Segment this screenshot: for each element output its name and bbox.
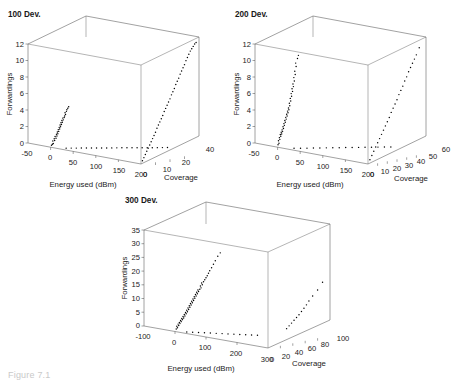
data-point — [322, 282, 323, 283]
y-tick-label: 40 — [417, 157, 425, 166]
data-point — [143, 157, 144, 158]
data-point — [358, 147, 359, 148]
plot-panel-300-dev: 35 30 25 20 15 10 5 0 Forwardings — [113, 186, 363, 372]
z-axis-100: 12 10 8 6 4 2 0 Forwardings — [5, 40, 28, 148]
data-point — [53, 143, 54, 144]
data-point — [410, 67, 411, 68]
y-tick-label: 30 — [405, 161, 413, 170]
data-point — [290, 93, 291, 94]
data-point — [211, 267, 212, 268]
data-point — [384, 146, 385, 147]
data-point — [59, 128, 60, 129]
data-point — [65, 114, 66, 115]
x-tick-label: 100 — [90, 162, 103, 171]
data-point — [141, 147, 142, 148]
data-point — [155, 132, 156, 133]
data-point — [191, 48, 192, 49]
z-axis-200: 12 10 8 6 4 2 0 Forwardings — [232, 40, 255, 148]
data-point — [162, 147, 163, 148]
data-point — [181, 70, 182, 71]
data-point — [194, 296, 195, 297]
z-axis-label: Forwardings — [5, 72, 14, 115]
x-tick-label: 150 — [113, 166, 126, 175]
data-point — [294, 70, 295, 71]
data-point — [217, 256, 218, 257]
z-axis-label: Forwardings — [232, 72, 241, 115]
data-point — [190, 303, 191, 304]
data-point — [364, 147, 365, 148]
data-point — [205, 277, 206, 278]
data-point — [198, 291, 199, 292]
data-point — [317, 289, 318, 290]
data-point — [285, 122, 286, 123]
data-point — [197, 289, 198, 290]
data-point — [287, 112, 288, 113]
data-point — [193, 300, 194, 301]
data-point — [285, 118, 286, 119]
data-point — [196, 292, 197, 293]
plot-title-100: 100 Dev. — [8, 10, 41, 19]
z-tick-label: 4 — [20, 106, 24, 115]
data-point — [199, 289, 200, 290]
data-point — [400, 90, 401, 91]
x-axis-label: Energy used (dBm) — [49, 180, 117, 189]
z-tick-label: 35 — [132, 226, 140, 235]
data-point — [404, 80, 405, 81]
data-point — [389, 117, 390, 118]
x-tick-label: 0 — [275, 153, 279, 162]
data-point — [168, 101, 169, 102]
data-point — [201, 282, 202, 283]
data-point — [203, 281, 204, 282]
data-point — [58, 129, 59, 130]
data-point — [281, 129, 282, 130]
data-point — [257, 334, 258, 335]
data-point — [66, 111, 67, 112]
data-point — [91, 147, 92, 148]
plot-svg-100-dev: 12 10 8 6 4 2 0 Forwardings — [0, 0, 227, 191]
plot-title-200: 200 Dev. — [235, 10, 268, 19]
data-point — [195, 295, 196, 296]
data-point — [60, 126, 61, 127]
data-point — [163, 111, 164, 112]
data-point — [178, 325, 179, 326]
y-tick-label: 20 — [393, 164, 401, 173]
plot-svg-300-dev: 35 30 25 20 15 10 5 0 Forwardings — [113, 186, 363, 372]
x-axis-300: -100 0 100 200 300 Energy used (dBm) — [135, 332, 273, 374]
y-tick-label: 50 — [429, 152, 437, 161]
data-point — [106, 147, 107, 148]
data-point — [385, 125, 386, 126]
x-tick-label: 0 — [172, 338, 176, 347]
axes-box-300 — [144, 202, 330, 348]
data-point — [162, 115, 163, 116]
plot-panel-200-dev: 12 10 8 6 4 2 0 Forwardings — [227, 0, 454, 191]
y-axis-label: Coverage — [292, 359, 326, 368]
data-point — [136, 147, 137, 148]
data-point — [184, 64, 185, 65]
data-point — [63, 119, 64, 120]
data-point — [152, 147, 153, 148]
data-point — [157, 147, 158, 148]
data-point — [210, 332, 211, 333]
data-point — [204, 279, 205, 280]
data-point — [369, 159, 370, 160]
x-tick-label: 100 — [317, 162, 330, 171]
data-point — [288, 109, 289, 110]
data-point — [408, 71, 409, 72]
data-point — [291, 322, 292, 323]
data-point — [186, 310, 187, 311]
data-point — [198, 332, 199, 333]
data-point — [189, 305, 190, 306]
data-point — [194, 298, 195, 299]
data-point — [184, 314, 185, 315]
data-point — [101, 147, 102, 148]
data-point — [62, 121, 63, 122]
data-point — [402, 85, 403, 86]
data-point — [174, 88, 175, 89]
y-tick-label: 40 — [206, 145, 214, 154]
data-point — [192, 298, 193, 299]
data-point — [284, 120, 285, 121]
data-point — [55, 138, 56, 139]
y-tick-label: 40 — [295, 348, 303, 357]
data-point — [146, 147, 147, 148]
data-point — [59, 124, 60, 125]
